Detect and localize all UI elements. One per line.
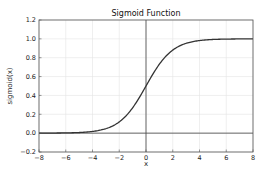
sigmoid-chart: −8−6−4−202468 −0.20.00.20.40.60.81.01.2 … bbox=[0, 0, 266, 177]
x-axis-label: x bbox=[144, 160, 148, 168]
x-tick-label: −6 bbox=[61, 154, 71, 162]
y-tick-label: 0.0 bbox=[26, 129, 36, 137]
x-tick-label: 6 bbox=[224, 154, 228, 162]
y-tick-label: 0.6 bbox=[26, 73, 36, 81]
y-tick-label: −0.2 bbox=[20, 148, 36, 156]
y-tick-label: 1.0 bbox=[26, 35, 36, 43]
y-tick-label: 0.4 bbox=[26, 92, 36, 100]
y-tick-label: 0.8 bbox=[26, 54, 36, 62]
x-tick-label: −2 bbox=[114, 154, 124, 162]
y-tick-label: 0.2 bbox=[26, 111, 36, 119]
chart-title: Sigmoid Function bbox=[112, 9, 181, 18]
x-tick-label: 8 bbox=[251, 154, 255, 162]
y-axis-label: sigmoid(x) bbox=[6, 67, 14, 104]
x-tick-label: −4 bbox=[88, 154, 98, 162]
x-tick-label: 4 bbox=[197, 154, 201, 162]
y-tick-label: 1.2 bbox=[26, 16, 36, 24]
x-tick-label: 2 bbox=[171, 154, 175, 162]
y-axis-ticks: −0.20.00.20.40.60.81.01.2 bbox=[20, 16, 41, 156]
